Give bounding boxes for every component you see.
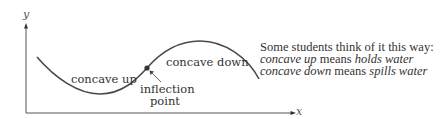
inflection-pointer-line [151, 72, 161, 82]
inflection-label-line2: point [140, 95, 190, 107]
y-axis-label: y [23, 9, 29, 21]
note-meaning-spills-water: spills water [369, 64, 427, 78]
x-axis-label: x [296, 106, 302, 118]
mnemonic-note: Some students think of it this way: conc… [260, 41, 434, 77]
note-connector: means [331, 64, 369, 78]
inflection-point-label: inflection point [140, 83, 190, 107]
concave-up-label: concave up [71, 73, 137, 85]
note-term-concave-down: concave down [260, 64, 331, 78]
concave-down-label: concave down [166, 56, 249, 68]
inflection-point-marker [144, 65, 149, 70]
concavity-diagram: y x concave up concave down inflection p… [0, 0, 440, 119]
note-line-concave-down: concave down means spills water [260, 65, 434, 77]
y-axis-arrow-icon [24, 23, 28, 29]
